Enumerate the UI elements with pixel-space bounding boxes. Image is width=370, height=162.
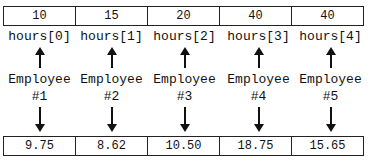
employee-1: Employee#1 — [3, 71, 76, 105]
hours-cell-1: 15 — [76, 7, 148, 25]
employee-3: Employee#3 — [148, 71, 221, 105]
arrow-up-icon — [184, 54, 186, 68]
employee-5: Employee#5 — [294, 71, 367, 105]
pay-rate-cell-3: 18.75 — [220, 137, 292, 155]
hours-array: 10 15 20 40 40 — [3, 6, 364, 26]
hours-label-2: hours[2] — [148, 29, 221, 44]
hours-label-1: hours[1] — [75, 29, 148, 44]
arrow-up-icon — [330, 54, 332, 68]
arrow-down-icon — [330, 107, 332, 125]
arrow-down-icon — [184, 107, 186, 125]
hours-cell-0: 10 — [4, 7, 76, 25]
hours-cell-3: 40 — [220, 7, 292, 25]
arrow-up-icon — [111, 54, 113, 68]
hours-label-0: hours[0] — [3, 29, 76, 44]
pay-rate-array: 9.75 8.62 10.50 18.75 15.65 — [3, 136, 364, 156]
pay-rate-cell-0: 9.75 — [4, 137, 76, 155]
employee-4: Employee#4 — [222, 71, 295, 105]
pay-rate-cell-4: 15.65 — [292, 137, 363, 155]
hours-cell-4: 40 — [292, 7, 363, 25]
hours-label-4: hours[4] — [294, 29, 367, 44]
arrow-up-icon — [39, 54, 41, 68]
employee-2: Employee#2 — [75, 71, 148, 105]
pay-rate-cell-2: 10.50 — [148, 137, 220, 155]
arrow-down-icon — [39, 107, 41, 125]
pay-rate-cell-1: 8.62 — [76, 137, 148, 155]
hours-cell-2: 20 — [148, 7, 220, 25]
arrow-down-icon — [258, 107, 260, 125]
arrow-up-icon — [258, 54, 260, 68]
hours-label-3: hours[3] — [222, 29, 295, 44]
arrow-down-icon — [111, 107, 113, 125]
